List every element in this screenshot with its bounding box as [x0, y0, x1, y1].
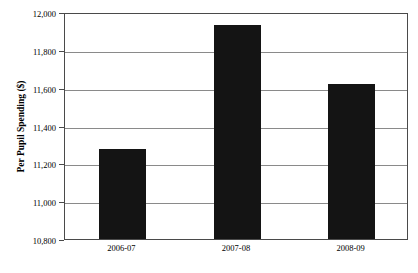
y-axis-tick-label: 11,000 [6, 198, 56, 208]
y-axis-tick-mark [59, 240, 64, 241]
y-axis-tick-label: 11,800 [6, 47, 56, 57]
bar [328, 84, 375, 239]
plot-area [64, 13, 408, 240]
y-axis-tick-label: 11,600 [6, 85, 56, 95]
y-axis-tick-label: 11,400 [6, 123, 56, 133]
bar-chart-figure: Per Pupil Spending ($) 10,80011,00011,20… [0, 0, 418, 273]
y-axis-tick-label: 12,000 [6, 9, 56, 19]
x-axis-tick-label: 2006-07 [81, 243, 161, 253]
y-axis-tick-label: 10,800 [6, 236, 56, 246]
y-axis-tick-label: 11,200 [6, 160, 56, 170]
x-axis-tick-label: 2007-08 [196, 243, 276, 253]
x-axis-tick-label: 2008-09 [311, 243, 391, 253]
bar [99, 149, 146, 239]
bar [214, 25, 261, 239]
